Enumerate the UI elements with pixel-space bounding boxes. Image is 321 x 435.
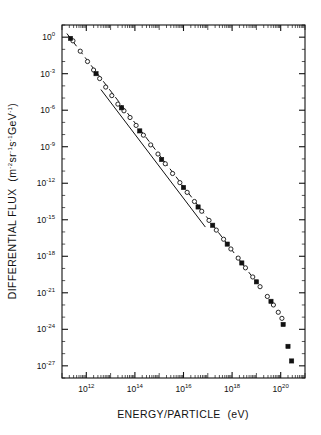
marker-open-circle bbox=[185, 190, 189, 194]
marker-open-circle bbox=[104, 85, 108, 89]
marker-filled-square bbox=[94, 72, 98, 76]
marker-open-circle bbox=[221, 237, 225, 241]
marker-filled-square bbox=[181, 185, 185, 189]
marker-open-circle bbox=[265, 294, 269, 298]
marker-filled-square bbox=[160, 157, 164, 161]
marker-open-circle bbox=[276, 310, 280, 314]
marker-open-circle bbox=[110, 94, 114, 98]
marker-filled-square bbox=[138, 129, 142, 133]
x-axis-title: ENERGY/PARTICLE (eV) bbox=[117, 408, 249, 420]
marker-filled-square bbox=[225, 242, 229, 246]
marker-open-circle bbox=[200, 209, 204, 213]
marker-filled-square bbox=[68, 36, 72, 40]
marker-filled-square bbox=[240, 261, 244, 265]
marker-open-circle bbox=[243, 266, 247, 270]
marker-open-circle bbox=[149, 143, 153, 147]
marker-open-circle bbox=[141, 133, 145, 137]
marker-open-circle bbox=[128, 115, 132, 119]
marker-filled-square bbox=[290, 359, 294, 363]
marker-open-circle bbox=[163, 162, 167, 166]
marker-filled-square bbox=[119, 106, 123, 110]
cosmic-ray-spectrum-figure: 10-2710-2410-2110-1810-1510-1210-910-610… bbox=[0, 0, 321, 435]
marker-open-circle bbox=[85, 59, 89, 63]
marker-open-circle bbox=[207, 218, 211, 222]
marker-filled-square bbox=[269, 299, 273, 303]
marker-open-circle bbox=[134, 123, 138, 127]
marker-open-circle bbox=[251, 275, 255, 279]
marker-filled-square bbox=[211, 223, 215, 227]
marker-open-circle bbox=[258, 285, 262, 289]
marker-filled-square bbox=[286, 344, 290, 348]
marker-open-circle bbox=[280, 316, 284, 320]
marker-open-circle bbox=[229, 247, 233, 251]
y-axis-title: DIFFERENTIAL FLUX (m-2sr-1s-1GeV-1) bbox=[6, 103, 18, 299]
marker-open-circle bbox=[236, 256, 240, 260]
chart-canvas: 10-2710-2410-2110-1810-1510-1210-910-610… bbox=[0, 0, 321, 435]
marker-open-circle bbox=[170, 171, 174, 175]
marker-open-circle bbox=[78, 49, 82, 53]
marker-filled-square bbox=[281, 322, 285, 326]
marker-filled-square bbox=[196, 205, 200, 209]
marker-open-circle bbox=[214, 228, 218, 232]
marker-open-circle bbox=[178, 181, 182, 185]
marker-open-circle bbox=[192, 199, 196, 203]
marker-open-circle bbox=[156, 152, 160, 156]
marker-open-circle bbox=[98, 76, 102, 80]
svg-text:DIFFERENTIAL FLUX (m-2sr-1s-1: DIFFERENTIAL FLUX (m-2sr-1s-1GeV-1) bbox=[6, 103, 18, 299]
marker-filled-square bbox=[254, 280, 258, 284]
